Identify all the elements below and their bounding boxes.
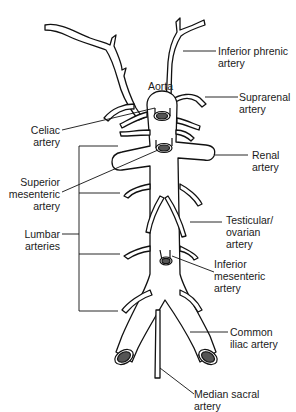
label-celiac-artery: Celiac artery: [22, 124, 60, 148]
label-testicular-ovarian-artery: Testicular/ ovarian artery: [226, 214, 273, 250]
leader-median-sacral: [160, 368, 194, 394]
label-suprarenal-artery: Suprarenal artery: [239, 91, 290, 115]
label-aorta: Aorta: [148, 80, 173, 92]
median-sacral-vessel: [155, 310, 160, 378]
label-inferior-mesenteric-artery: Inferior mesenteric artery: [214, 258, 265, 294]
label-lumbar-arteries: Lumbar arteries: [12, 228, 60, 252]
label-common-iliac-artery: Common iliac artery: [230, 326, 278, 350]
label-median-sacral-artery: Median sacral artery: [194, 388, 259, 412]
label-inferior-phrenic-artery: Inferior phrenic artery: [218, 45, 288, 69]
label-renal-artery: Renal artery: [252, 149, 279, 173]
label-superior-mesenteric-artery: Superior mesenteric artery: [6, 176, 60, 212]
